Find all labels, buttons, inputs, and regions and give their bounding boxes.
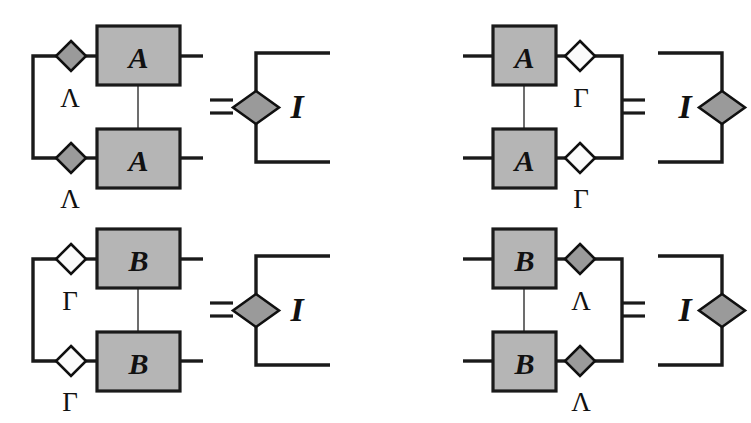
tensor-box-lower-label: B (127, 347, 148, 380)
tensor-network-canvas: A A Λ Λ I (0, 0, 751, 423)
rhs-identity-top-right: I (658, 53, 745, 162)
node-diamond-lower (565, 346, 595, 376)
equation-top-left: A A Λ Λ I (33, 26, 330, 214)
rhs-identity-bottom-left: I (233, 256, 330, 365)
lhs-network-top-right: A A Γ Γ (463, 26, 622, 214)
node-label-lower: Γ (573, 184, 589, 214)
lhs-network-bottom-right: B B Λ Λ (463, 229, 622, 417)
node-diamond-lower (56, 143, 86, 173)
rhs-identity-bottom-right: I (658, 256, 745, 365)
identity-node-diamond (233, 294, 279, 327)
equation-bottom-left: B B Γ Γ I (33, 229, 330, 417)
identity-label: I (289, 291, 305, 328)
tensor-box-lower-label: A (126, 144, 148, 177)
contraction-bracket-right (591, 56, 622, 158)
node-label-upper: Γ (573, 83, 589, 113)
node-label-lower: Γ (62, 387, 78, 417)
rhs-identity-top-left: I (233, 53, 330, 162)
tensor-box-upper-label: A (512, 41, 534, 74)
node-label-upper: Λ (571, 286, 591, 316)
tensor-box-lower: A (493, 129, 556, 188)
equation-bottom-right: B B Λ Λ I (463, 229, 745, 417)
identity-node-diamond (699, 91, 745, 124)
tensor-network-figure: A A Λ Λ I (0, 0, 751, 423)
tensor-box-upper-label: B (127, 244, 148, 277)
node-label-lower: Λ (60, 184, 80, 214)
tensor-box-lower: A (97, 129, 180, 188)
node-label-upper: Γ (62, 286, 78, 316)
equals-sign-bottom-left (210, 303, 233, 316)
contraction-bracket-right (591, 259, 622, 361)
equals-sign-top-left (210, 100, 233, 113)
identity-node-diamond (233, 91, 279, 124)
tensor-box-lower-label: A (512, 144, 534, 177)
tensor-box-upper: B (97, 229, 180, 288)
lhs-network-top-left: A A Λ Λ (33, 26, 203, 214)
tensor-box-upper-label: A (126, 41, 148, 74)
tensor-box-upper: B (493, 229, 556, 288)
identity-label: I (677, 88, 693, 125)
node-diamond-upper (56, 244, 86, 274)
identity-label: I (289, 88, 305, 125)
tensor-box-upper: A (493, 26, 556, 85)
equals-sign-top-right (622, 100, 645, 113)
node-label-upper: Λ (60, 83, 80, 113)
node-diamond-upper (565, 41, 595, 71)
equation-top-right: A A Γ Γ I (463, 26, 745, 214)
node-diamond-upper (56, 41, 86, 71)
tensor-box-lower: B (493, 332, 556, 391)
lhs-network-bottom-left: B B Γ Γ (33, 229, 203, 417)
tensor-box-lower: B (97, 332, 180, 391)
identity-label: I (677, 291, 693, 328)
tensor-box-upper-label: B (513, 244, 534, 277)
node-label-lower: Λ (571, 387, 591, 417)
node-diamond-lower (56, 346, 86, 376)
equals-sign-bottom-right (622, 303, 645, 316)
contraction-bracket-left (33, 259, 66, 361)
tensor-box-lower-label: B (513, 347, 534, 380)
node-diamond-lower (565, 143, 595, 173)
tensor-box-upper: A (97, 26, 180, 85)
node-diamond-upper (565, 244, 595, 274)
identity-node-diamond (699, 294, 745, 327)
